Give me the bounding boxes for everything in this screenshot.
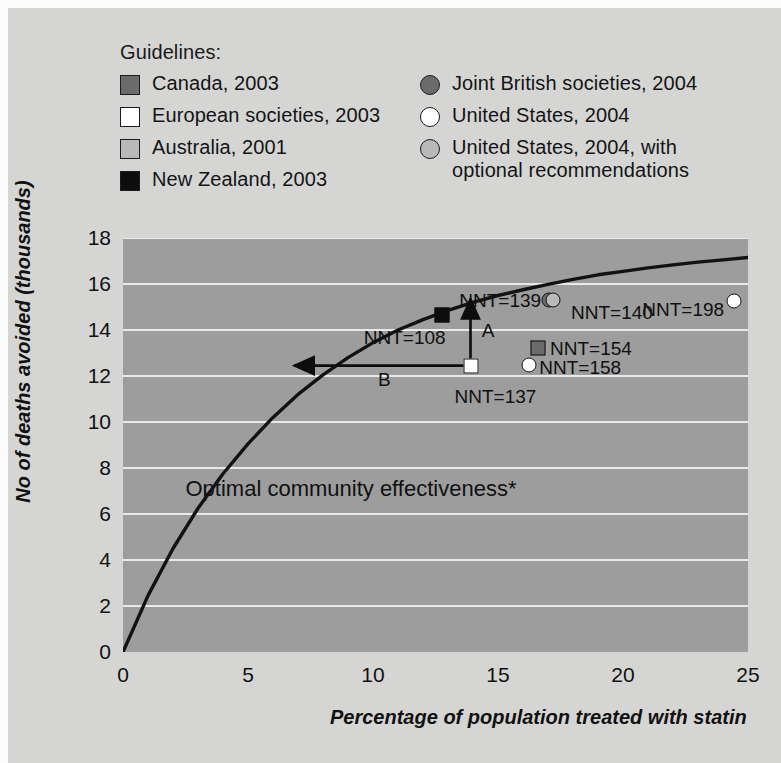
- data-point-canada-2003: [531, 341, 546, 356]
- data-point-united-states-2004-optional: [546, 293, 561, 308]
- data-point-label-united-states-2004-optional: NNT=140: [571, 303, 653, 322]
- y-tick-label: 16: [77, 273, 111, 294]
- plot-area: AB NNT=108NNT=139NNT=140NNT=198NNT=154NN…: [123, 238, 748, 652]
- x-tick-label: 5: [228, 664, 268, 685]
- x-tick-label: 15: [478, 664, 518, 685]
- data-point-united-states-2004-open: [522, 357, 537, 372]
- data-point-label-canada-2003: NNT=154: [550, 339, 632, 358]
- chart: No of deaths avoided (thousands) Percent…: [0, 0, 781, 763]
- arrow-a-label: A: [482, 320, 495, 341]
- x-tick-label: 10: [353, 664, 393, 685]
- y-tick-label: 2: [77, 595, 111, 616]
- data-point-new-zealand-2003: [434, 308, 449, 323]
- y-tick-label: 12: [77, 365, 111, 386]
- x-axis-label: Percentage of population treated with st…: [330, 706, 747, 729]
- x-tick-label: 20: [603, 664, 643, 685]
- y-tick-label: 8: [77, 457, 111, 478]
- x-tick-label: 25: [728, 664, 768, 685]
- y-tick-label: 6: [77, 503, 111, 524]
- data-point-label-european-societies-2003: NNT=137: [455, 387, 537, 406]
- x-tick-label: 0: [103, 664, 143, 685]
- y-tick-label: 0: [77, 641, 111, 662]
- y-tick-label: 18: [77, 227, 111, 248]
- data-point-label-new-zealand-2003: NNT=108: [364, 328, 446, 347]
- arrow-b-label: B: [378, 369, 391, 390]
- data-point-united-states-2004: [727, 294, 742, 309]
- y-tick-label: 14: [77, 319, 111, 340]
- y-axis-label: No of deaths avoided (thousands): [12, 177, 35, 507]
- y-tick-label: 4: [77, 549, 111, 570]
- curve-caption: Optimal community effectiveness*: [186, 478, 517, 500]
- figure-root: Guidelines: Canada, 2003 European societ…: [0, 0, 781, 763]
- data-point-label-united-states-2004-open: NNT=158: [539, 358, 621, 377]
- data-point-label-joint-british-societies-2004: NNT=139: [459, 291, 541, 310]
- data-point-label-united-states-2004: NNT=198: [642, 300, 724, 319]
- y-tick-label: 10: [77, 411, 111, 432]
- data-point-european-societies-2003: [463, 358, 478, 373]
